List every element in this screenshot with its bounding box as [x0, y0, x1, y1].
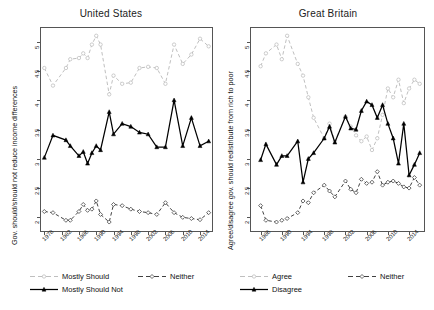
data-point-marker	[397, 161, 401, 165]
data-point-marker	[42, 210, 46, 214]
data-point-marker	[285, 217, 289, 221]
y-tick-mark	[247, 100, 250, 101]
legend-swatch-neither	[348, 272, 376, 281]
series-line	[44, 201, 208, 222]
series-line	[261, 101, 420, 182]
data-point-marker	[99, 43, 102, 46]
legend-item-neither[interactable]: Neither	[138, 272, 194, 281]
data-point-marker	[146, 65, 149, 68]
data-point-marker	[412, 176, 416, 180]
data-point-marker	[264, 52, 267, 55]
data-point-marker	[172, 211, 176, 215]
series-canvas-great-britain	[250, 27, 425, 232]
y-tick-label: 2.5	[34, 187, 40, 195]
series-line	[261, 36, 420, 150]
y-tick-label: 3	[34, 162, 40, 165]
data-point-marker	[275, 220, 279, 224]
data-point-marker	[252, 275, 255, 278]
data-point-marker	[69, 58, 72, 61]
data-point-marker	[407, 87, 410, 90]
data-point-marker	[365, 135, 368, 138]
y-tick-label: 3	[244, 162, 250, 165]
data-point-marker	[418, 151, 422, 155]
data-point-marker	[360, 140, 363, 143]
data-point-marker	[381, 103, 385, 107]
legend-swatch-mostly_should_not	[30, 285, 58, 294]
data-point-marker	[112, 74, 115, 77]
data-point-marker	[189, 116, 193, 120]
y-tick-mark	[37, 100, 40, 101]
data-point-marker	[413, 78, 416, 81]
data-point-marker	[181, 144, 185, 148]
data-point-marker	[375, 116, 379, 120]
y-tick-label: 3.5	[34, 128, 40, 136]
data-point-marker	[42, 275, 45, 278]
legend-item-mostly_should[interactable]: Mostly Should	[30, 272, 109, 281]
y-tick-label: 4.5	[244, 70, 250, 78]
data-point-marker	[90, 207, 94, 211]
legend-swatch-disagree	[240, 285, 268, 294]
data-point-marker	[381, 183, 385, 187]
data-point-marker	[259, 65, 262, 68]
legend-swatch-agree	[240, 272, 268, 281]
legend-item-neither[interactable]: Neither	[348, 272, 404, 281]
data-point-marker	[107, 110, 111, 114]
data-point-marker	[275, 43, 278, 46]
legend-label-mostly_should: Mostly Should	[62, 272, 109, 281]
series-line	[261, 172, 420, 222]
data-point-marker	[391, 96, 394, 99]
y-tick-label: 4.5	[34, 70, 40, 78]
data-point-marker	[51, 133, 55, 137]
data-point-marker	[155, 66, 158, 69]
data-point-marker	[42, 155, 46, 159]
data-point-marker	[198, 218, 202, 222]
data-point-marker	[108, 93, 111, 96]
data-point-marker	[280, 218, 284, 222]
data-point-marker	[360, 275, 364, 279]
data-point-marker	[391, 136, 395, 140]
data-point-marker	[120, 204, 124, 208]
data-point-marker	[312, 116, 315, 119]
data-point-marker	[386, 121, 390, 125]
y-axis-label-united-states: Gov. should/should not reduce income dif…	[10, 86, 19, 245]
data-point-marker	[285, 34, 288, 37]
y-tick-label: 4	[34, 104, 40, 107]
legend-label-agree: Agree	[272, 272, 292, 281]
data-point-marker	[307, 96, 310, 99]
plot-area-great-britain	[250, 27, 425, 232]
data-point-marker	[418, 183, 422, 187]
data-point-marker	[77, 56, 80, 59]
panel-great-britain: Great Britain Agree/disagree gov. should…	[222, 0, 434, 310]
y-tick-mark	[37, 217, 40, 218]
data-point-marker	[94, 144, 98, 148]
legend-item-agree[interactable]: Agree	[240, 272, 292, 281]
data-point-marker	[150, 275, 154, 279]
data-point-marker	[86, 161, 90, 165]
y-tick-label: 2.5	[244, 187, 250, 195]
data-point-marker	[376, 137, 379, 140]
data-point-marker	[90, 43, 93, 46]
data-point-marker	[198, 37, 201, 40]
data-point-marker	[402, 101, 405, 104]
y-tick-label: 2	[34, 221, 40, 224]
data-point-marker	[95, 34, 98, 37]
figure-root: United States Gov. should/should not red…	[0, 0, 434, 310]
data-point-marker	[129, 81, 132, 84]
data-point-marker	[94, 199, 98, 203]
data-point-marker	[81, 150, 85, 154]
data-point-marker	[189, 217, 193, 221]
data-point-marker	[164, 82, 167, 85]
plot-area-united-states	[40, 27, 213, 232]
legend-label-neither: Neither	[380, 272, 404, 281]
data-point-marker	[138, 66, 141, 69]
legend-item-disagree[interactable]: Disagree	[240, 285, 302, 294]
data-point-marker	[386, 180, 390, 184]
legend-item-mostly_should_not[interactable]: Mostly Should Not	[30, 285, 123, 294]
y-tick-label: 4	[244, 104, 250, 107]
data-point-marker	[264, 142, 268, 146]
y-tick-label: 3.5	[244, 128, 250, 136]
data-point-marker	[207, 139, 211, 143]
data-point-marker	[137, 210, 141, 214]
legend-great-britain: AgreeNeitherDisagree	[240, 272, 432, 298]
data-point-marker	[396, 181, 400, 185]
